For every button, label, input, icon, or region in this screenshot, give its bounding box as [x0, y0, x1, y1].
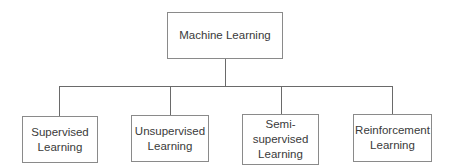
stem-semi-supervised: [281, 86, 282, 114]
node-supervised-learning: Supervised Learning: [22, 116, 98, 163]
node-label: Supervised Learning: [31, 125, 89, 155]
horizontal-bus-connector: [59, 86, 393, 87]
node-label: Semi- supervised Learning: [253, 117, 309, 162]
root-stem-connector: [225, 59, 226, 87]
node-unsupervised-learning: Unsupervised Learning: [131, 115, 209, 162]
node-reinforcement-learning: Reinforcement Learning: [353, 114, 432, 162]
stem-supervised: [59, 86, 60, 116]
root-node-machine-learning: Machine Learning: [167, 12, 283, 59]
node-semi-supervised-learning: Semi- supervised Learning: [242, 114, 319, 165]
stem-reinforcement: [392, 86, 393, 114]
root-node-label: Machine Learning: [179, 28, 270, 43]
node-label: Reinforcement Learning: [355, 123, 430, 153]
stem-unsupervised: [170, 86, 171, 115]
node-label: Unsupervised Learning: [135, 124, 205, 154]
